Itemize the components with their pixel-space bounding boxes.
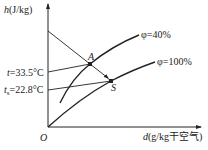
temp-ts-label: ts=22.8°C [4, 84, 44, 97]
curve-phi-40 [60, 35, 139, 103]
isotherm-ts [48, 81, 111, 90]
x-axis-label: d(g/kg干空气) [143, 130, 202, 143]
temp-t-label: t=33.5°C [7, 67, 44, 78]
curve-phi-100-label: φ=100% [157, 56, 192, 67]
isotherm-t [48, 64, 90, 72]
hd-diagram: h(J/kg) d(g/kg干空气) O A S φ=40% φ=100% t=… [0, 0, 208, 150]
point-S-label: S [111, 82, 116, 93]
point-A-label: A [87, 51, 95, 62]
curve-phi-40-label: φ=40% [141, 29, 171, 40]
point-A-marker [88, 62, 92, 66]
y-axis-label: h(J/kg) [4, 4, 32, 16]
origin-label: O [40, 132, 47, 143]
enthalpy-line [48, 31, 90, 64]
